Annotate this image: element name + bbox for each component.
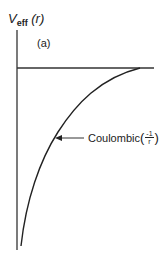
y-axis-label: Veff (r) [8,11,44,28]
coulombic-curve [21,68,140,246]
paren-close: ) [155,130,159,145]
coulombic-annotation: Coulombic ( -1 r ) [88,130,159,145]
fraction-denominator: r [148,138,150,145]
fraction: -1 r [145,130,153,145]
annotation-text: Coulombic [88,132,140,144]
fraction-numerator: -1 [145,130,153,138]
paren-open: ( [140,130,144,145]
panel-label: (a) [37,37,50,49]
